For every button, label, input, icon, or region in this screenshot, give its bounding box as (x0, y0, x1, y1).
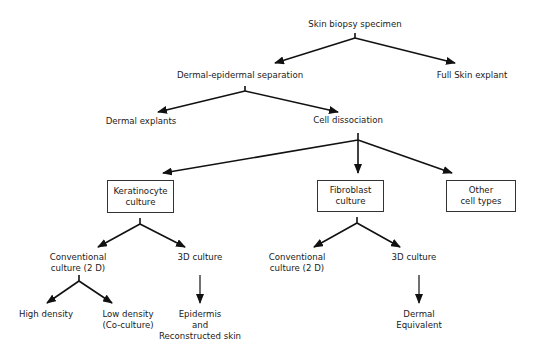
node-other-cell-types: Other cell types (460, 185, 501, 207)
node-low-density-line1: Low density (102, 309, 153, 320)
node-skin-biopsy-specimen: Skin biopsy specimen (308, 19, 401, 30)
node-f-conventional-line2: culture (2 D) (270, 263, 324, 274)
node-full-skin-explant: Full Skin explant (437, 70, 508, 81)
node-k-conventional-line1: Conventional (50, 252, 107, 263)
node-k-conventional-line2: culture (2 D) (51, 263, 105, 274)
node-dermal-equivalent-line2: Equivalent (396, 320, 442, 331)
node-epidermis-line1: Epidermis (179, 309, 222, 320)
node-cell-dissociation: Cell dissociation (313, 115, 383, 126)
node-f-3d-culture: 3D culture (392, 252, 437, 263)
node-keratinocyte-culture-box: Keratinocyte culture (107, 180, 174, 213)
node-epidermis-line3: Reconstructed skin (159, 331, 241, 342)
node-low-density-line2: (Co-culture) (102, 320, 153, 331)
node-fibroblast-culture-box: Fibroblast culture (317, 180, 384, 212)
flowchart-canvas: Skin biopsy specimen Dermal-epidermal se… (0, 0, 536, 359)
node-keratinocyte-culture: Keratinocyte culture (113, 186, 167, 208)
node-epidermis-line2: and (192, 320, 208, 331)
node-dermal-epidermal-separation: Dermal-epidermal separation (177, 70, 303, 81)
node-k-3d-culture: 3D culture (178, 252, 223, 263)
node-dermal-equivalent-line1: Dermal (403, 309, 434, 320)
node-fibroblast-culture: Fibroblast culture (330, 185, 372, 207)
node-f-conventional-line1: Conventional (269, 252, 326, 263)
node-high-density: High density (19, 309, 73, 320)
node-dermal-explants: Dermal explants (106, 116, 177, 127)
node-other-cell-types-box: Other cell types (446, 180, 516, 212)
